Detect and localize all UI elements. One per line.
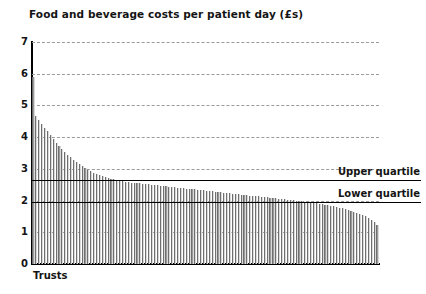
bar bbox=[269, 198, 271, 264]
bar bbox=[90, 171, 92, 264]
y-tick-label-6: 6 bbox=[6, 69, 28, 79]
bar bbox=[125, 182, 127, 264]
bar bbox=[365, 216, 367, 264]
bar bbox=[249, 196, 251, 265]
bar bbox=[287, 200, 289, 264]
x-axis-label: Trusts bbox=[33, 270, 67, 281]
gridline-6 bbox=[32, 74, 379, 75]
bar bbox=[177, 188, 179, 264]
bar bbox=[223, 193, 225, 264]
bar bbox=[44, 128, 46, 264]
bar bbox=[290, 200, 292, 264]
bar bbox=[371, 220, 373, 264]
bar bbox=[113, 179, 115, 264]
bar bbox=[238, 194, 240, 264]
bar bbox=[84, 168, 86, 264]
bar bbox=[47, 131, 49, 264]
bar bbox=[229, 193, 231, 264]
bar bbox=[151, 185, 153, 264]
bar bbox=[32, 77, 34, 264]
bar bbox=[87, 170, 89, 264]
bar bbox=[267, 197, 269, 264]
bar bbox=[255, 196, 257, 264]
bar bbox=[168, 187, 170, 264]
y-tick-label-2: 2 bbox=[6, 196, 28, 206]
bar bbox=[197, 190, 199, 264]
bar bbox=[50, 135, 52, 264]
bar bbox=[110, 179, 112, 264]
bar bbox=[264, 197, 266, 264]
bar bbox=[272, 198, 274, 264]
upper-quartile-label: Upper quartile bbox=[338, 166, 420, 177]
bar bbox=[284, 199, 286, 264]
gridline-4 bbox=[32, 137, 379, 138]
bar bbox=[307, 202, 309, 264]
bar bbox=[122, 181, 124, 264]
bar bbox=[246, 195, 248, 264]
bar bbox=[310, 202, 312, 264]
bar bbox=[180, 188, 182, 264]
quartile-line-lower bbox=[32, 202, 379, 203]
bar bbox=[105, 177, 107, 264]
bar bbox=[82, 166, 84, 264]
bar bbox=[293, 200, 295, 264]
bar bbox=[145, 184, 147, 264]
bar bbox=[350, 211, 352, 264]
bar bbox=[108, 178, 110, 264]
bar bbox=[362, 215, 364, 264]
bar bbox=[368, 218, 370, 264]
bar bbox=[235, 194, 237, 264]
bar bbox=[342, 208, 344, 264]
bar bbox=[38, 120, 40, 264]
quartile-line-extension-upper bbox=[379, 180, 421, 181]
bar bbox=[160, 186, 162, 264]
bar bbox=[148, 184, 150, 264]
y-tick-label-4: 4 bbox=[6, 132, 28, 142]
bar bbox=[316, 203, 318, 264]
bar bbox=[189, 189, 191, 264]
bar bbox=[165, 186, 167, 264]
bar bbox=[322, 204, 324, 264]
bar bbox=[304, 202, 306, 264]
bar bbox=[275, 198, 277, 264]
chart-title: Food and beverage costs per patient day … bbox=[29, 8, 303, 20]
bar bbox=[319, 204, 321, 264]
bar bbox=[327, 205, 329, 264]
y-tick-label-7: 7 bbox=[6, 37, 28, 47]
y-tick-label-3: 3 bbox=[6, 164, 28, 174]
bar bbox=[128, 182, 130, 264]
bar bbox=[41, 124, 43, 264]
bar bbox=[301, 201, 303, 264]
bar bbox=[174, 187, 176, 264]
bar bbox=[56, 143, 58, 264]
bar bbox=[134, 183, 136, 264]
chart-figure: Food and beverage costs per patient day … bbox=[0, 0, 426, 294]
bar bbox=[116, 180, 118, 264]
bar bbox=[119, 181, 121, 264]
bar bbox=[191, 189, 193, 264]
bar bbox=[252, 196, 254, 264]
bar bbox=[93, 173, 95, 264]
bar bbox=[330, 206, 332, 264]
bar bbox=[183, 188, 185, 264]
bar bbox=[356, 213, 358, 264]
gridline-7 bbox=[32, 42, 379, 43]
bar bbox=[296, 201, 298, 264]
bar bbox=[374, 222, 376, 264]
bar bbox=[353, 212, 355, 264]
bar bbox=[35, 116, 37, 264]
bar bbox=[258, 196, 260, 264]
bar bbox=[333, 206, 335, 264]
bar bbox=[376, 225, 378, 264]
bar bbox=[61, 149, 63, 264]
bar bbox=[186, 189, 188, 264]
bar bbox=[298, 201, 300, 264]
bar bbox=[232, 194, 234, 264]
bar bbox=[226, 193, 228, 264]
bar bbox=[154, 185, 156, 264]
y-tick-label-0: 0 bbox=[6, 259, 28, 269]
bar bbox=[278, 199, 280, 264]
bar bbox=[324, 205, 326, 264]
y-tick-label-1: 1 bbox=[6, 227, 28, 237]
bar bbox=[67, 155, 69, 264]
